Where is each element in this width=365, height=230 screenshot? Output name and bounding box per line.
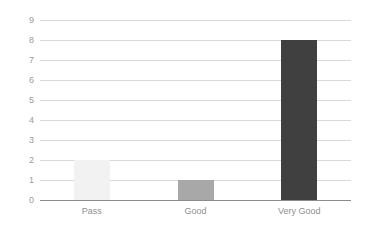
y-tick-label: 0 [6,196,34,205]
y-tick-label: 3 [6,136,34,145]
y-tick-label: 2 [6,156,34,165]
x-tick-label: Good [144,206,248,217]
y-tick-label: 4 [6,116,34,125]
x-tick-label: Very Good [247,206,351,217]
y-tick-label: 8 [6,36,34,45]
x-tick-label: Pass [40,206,144,217]
x-axis-line [40,200,351,201]
bar-chart: 9876543210 PassGoodVery Good [0,0,365,230]
y-tick-label: 5 [6,96,34,105]
plot-area [40,20,351,200]
y-tick-label: 7 [6,56,34,65]
y-axis: 9876543210 [0,20,34,200]
bar-very-good[interactable] [281,40,317,200]
bar-good[interactable] [178,180,214,200]
y-tick-label: 9 [6,16,34,25]
y-tick-label: 1 [6,176,34,185]
y-tick-label: 6 [6,76,34,85]
bar-pass[interactable] [74,160,110,200]
gridline [40,20,351,21]
